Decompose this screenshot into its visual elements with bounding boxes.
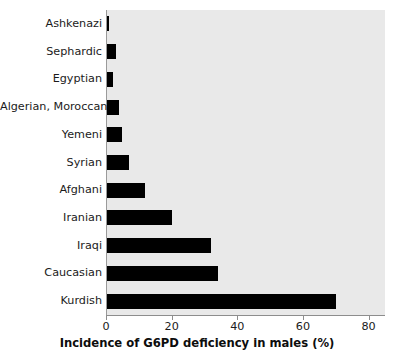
category-axis-labels: AshkenaziSephardicEgyptianAlgerian, Moro… [0,0,102,358]
x-tick-label: 60 [296,321,310,332]
category-label: Ashkenazi [0,18,108,29]
x-axis-title: Incidence of G6PD deficiency in males (%… [0,338,394,350]
x-tick-label: 0 [102,321,109,332]
category-label: Iraqi [0,240,108,251]
category-label: Kurdish [0,295,108,306]
bar [106,294,336,309]
category-label: Yemeni [0,129,108,140]
category-label: Iranian [0,212,108,223]
value-axis-line [106,315,385,316]
bar [106,210,172,225]
x-tick-label: 80 [361,321,375,332]
category-label: Caucasian [0,267,108,278]
category-label: Egyptian [0,73,108,84]
category-label: Afghani [0,184,108,195]
bar [106,155,129,170]
bar [106,266,218,281]
bar [106,183,145,198]
category-label: Algerian, Moroccan [0,101,108,112]
x-tick-label: 20 [165,321,179,332]
bar [106,127,122,142]
category-label: Syrian [0,157,108,168]
chart-container: AshkenaziSephardicEgyptianAlgerian, Moro… [0,0,394,358]
x-tick-label: 40 [230,321,244,332]
category-label: Sephardic [0,46,108,57]
bar [106,238,211,253]
